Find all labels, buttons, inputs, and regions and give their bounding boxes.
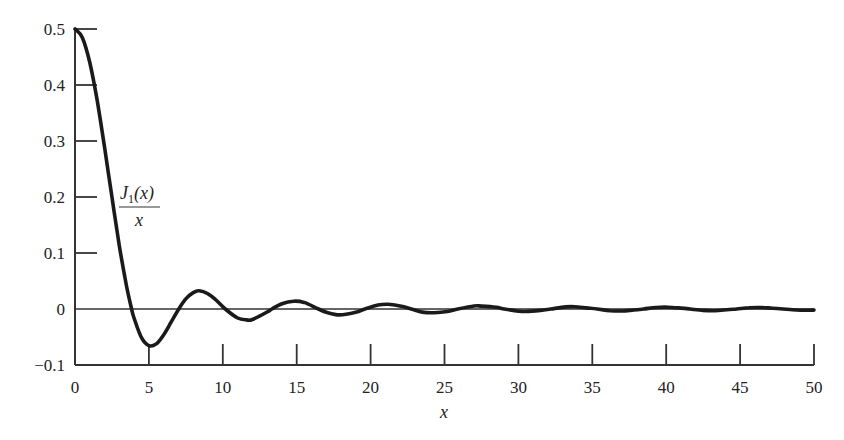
x-tick-label: 50 — [806, 378, 823, 397]
function-annotation: J1(x) x — [119, 183, 160, 230]
y-tick-label: 0.3 — [44, 132, 65, 151]
y-tick-label: 0.5 — [44, 20, 65, 39]
y-tick-label: 0 — [57, 300, 66, 319]
tick-labels: −0.100.10.20.30.40.505101520253035404550 — [34, 20, 822, 397]
x-tick-label: 40 — [658, 378, 675, 397]
y-tick-label: 0.4 — [44, 76, 66, 95]
y-tick-label: −0.1 — [34, 356, 65, 375]
annotation-denominator: x — [134, 210, 143, 230]
x-tick-label: 35 — [584, 378, 601, 397]
axes — [75, 29, 814, 365]
x-tick-label: 5 — [145, 378, 154, 397]
annotation-numerator: J1(x) — [120, 183, 154, 206]
ticks — [75, 29, 814, 365]
x-tick-label: 30 — [510, 378, 527, 397]
x-tick-label: 45 — [732, 378, 749, 397]
series-line-j1-over-x — [75, 29, 814, 346]
bessel-chart: −0.100.10.20.30.40.505101520253035404550… — [0, 0, 844, 440]
y-tick-label: 0.2 — [44, 188, 65, 207]
x-tick-label: 0 — [71, 378, 80, 397]
x-axis-label: x — [439, 402, 448, 422]
x-tick-label: 15 — [288, 378, 305, 397]
x-tick-label: 10 — [214, 378, 231, 397]
x-tick-label: 25 — [436, 378, 453, 397]
y-tick-label: 0.1 — [44, 244, 65, 263]
x-tick-label: 20 — [362, 378, 379, 397]
